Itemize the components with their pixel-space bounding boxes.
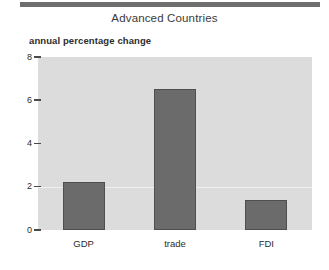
x-tick-label-gdp: GDP <box>73 238 94 249</box>
bar-chart-figure: Advanced Countries annual percentage cha… <box>0 0 329 270</box>
y-tick-mark <box>34 186 41 188</box>
chart-title: Advanced Countries <box>0 12 329 24</box>
y-tick-label: 2 <box>16 182 32 191</box>
bar-gdp <box>63 182 105 230</box>
bar-trade <box>154 89 196 230</box>
y-tick-mark <box>34 99 41 101</box>
x-tick-label-fdi: FDI <box>259 238 274 249</box>
y-tick-mark <box>34 229 41 231</box>
y-axis-caption: annual percentage change <box>29 35 151 46</box>
y-tick-label: 4 <box>16 139 32 148</box>
y-tick-mark <box>34 143 41 145</box>
y-tick-label: 8 <box>16 53 32 62</box>
x-tick-label-trade: trade <box>164 238 186 249</box>
y-tick-label: 0 <box>16 226 32 235</box>
y-tick-mark <box>34 56 41 58</box>
y-tick-label: 6 <box>16 96 32 105</box>
bar-fdi <box>245 200 287 230</box>
